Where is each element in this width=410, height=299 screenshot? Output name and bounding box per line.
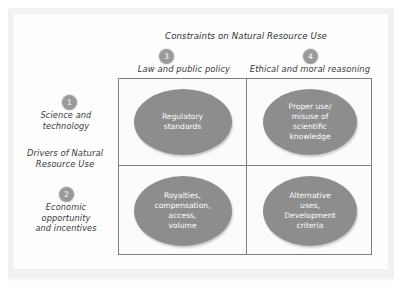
column-header-law-and-public-policy: Law and public policy xyxy=(122,64,246,75)
cell-ellipse-royalties-compensation: Royalties, compensation, access, volume xyxy=(134,176,232,246)
matrix-cell-2-3: Royalties, compensation, access, volume xyxy=(119,166,246,256)
scanned-figure-page: Constraints on Natural Resource Use 3 4 … xyxy=(0,0,410,299)
badge-1: 1 xyxy=(62,95,77,110)
row-label-economic-opportunity-and-incentives: Economic opportunity and incentives xyxy=(12,202,120,234)
badge-2: 2 xyxy=(59,187,74,202)
matrix-cell-1-3: Regulatory standards xyxy=(119,79,246,165)
row-axis-label: Drivers of Natural Resource Use xyxy=(10,148,120,169)
cell-ellipse-proper-use-misuse: Proper use/ misuse of scientific knowled… xyxy=(263,89,357,155)
badge-3: 3 xyxy=(159,49,174,64)
row-label-science-and-technology: Science and technology xyxy=(14,110,118,131)
page-shadow xyxy=(8,275,394,282)
matrix-cell-2-4: Alternative uses, Development criteria xyxy=(247,166,373,256)
two-by-two-matrix: Regulatory standards Proper use/ misuse … xyxy=(118,78,372,255)
matrix-cell-1-4: Proper use/ misuse of scientific knowled… xyxy=(247,79,373,165)
cell-ellipse-regulatory-standards: Regulatory standards xyxy=(134,89,232,155)
badge-4: 4 xyxy=(303,49,318,64)
chart-title: Constraints on Natural Resource Use xyxy=(118,31,374,42)
cell-ellipse-alternative-uses: Alternative uses, Development criteria xyxy=(263,176,357,246)
column-header-ethical-and-moral-reasoning: Ethical and moral reasoning xyxy=(246,64,374,75)
